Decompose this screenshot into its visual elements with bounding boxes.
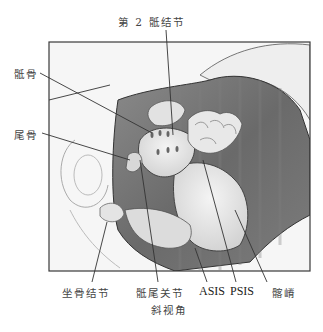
- label-ischial-tuberosity: 坐骨结节: [62, 285, 110, 300]
- anatomy-illustration: [0, 0, 323, 332]
- label-psis: PSIS: [230, 284, 254, 299]
- label-sacrococcygeal-joint: 骶尾关节: [136, 285, 184, 300]
- label-sacrum: 骶骨: [14, 66, 38, 81]
- figure-caption: 斜视角: [151, 302, 187, 317]
- label-sacral-tubercle-2: 第 2 骶结节: [118, 14, 185, 29]
- label-coccyx: 尾骨: [14, 127, 38, 142]
- label-asis: ASIS: [199, 284, 225, 299]
- label-iliac-crest: 髂嵴: [272, 285, 296, 300]
- illustration-body: [49, 42, 310, 271]
